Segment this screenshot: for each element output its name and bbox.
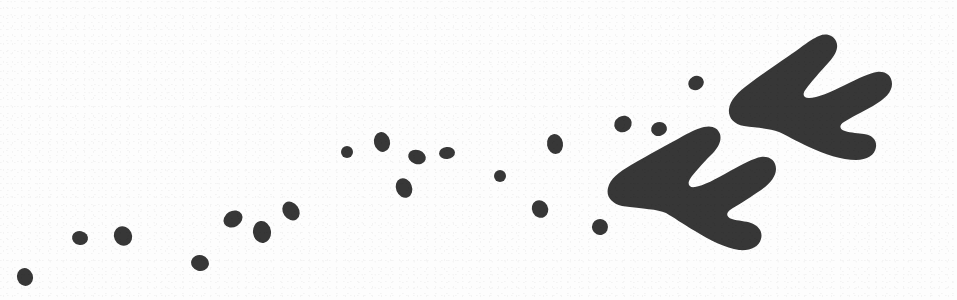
impression-18 — [341, 146, 353, 158]
trackway-illustration: Tridactyl track, rightTridactyl track, l… — [0, 0, 957, 300]
impression-19 — [494, 170, 506, 182]
trackway-figure: Tridactyl track, rightTridactyl track, l… — [0, 0, 957, 300]
